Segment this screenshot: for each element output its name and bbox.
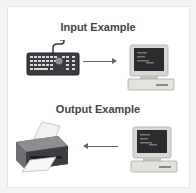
keyboard-icon bbox=[26, 40, 80, 76]
input-arrow bbox=[83, 61, 116, 62]
input-example-title: Input Example bbox=[0, 21, 196, 33]
output-arrow bbox=[84, 146, 118, 147]
printer-icon bbox=[12, 120, 72, 176]
output-example-title: Output Example bbox=[0, 103, 196, 115]
computer-icon bbox=[129, 126, 179, 174]
computer-icon bbox=[126, 44, 176, 92]
